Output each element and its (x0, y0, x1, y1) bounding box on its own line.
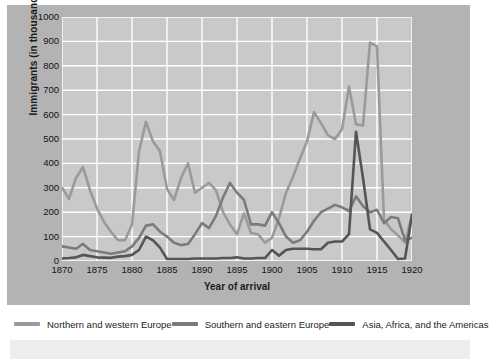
y-tick-label: 800 (25, 61, 59, 71)
y-tick-label: 700 (25, 85, 59, 95)
x-tick-label: 1875 (77, 265, 117, 275)
legend-swatch-icon (172, 322, 198, 326)
scan-band (10, 340, 470, 359)
y-tick-label: 600 (25, 110, 59, 120)
x-tick-label: 1910 (322, 265, 362, 275)
y-tick-label: 100 (25, 232, 59, 242)
x-tick-label: 1915 (357, 265, 397, 275)
y-tick-label: 500 (25, 134, 59, 144)
x-tick-label: 1880 (112, 265, 152, 275)
legend-swatch-icon (14, 322, 40, 326)
legend-label: Southern and eastern Europe (205, 319, 330, 330)
x-tick-label: 1895 (217, 265, 257, 275)
x-tick-label: 1900 (252, 265, 292, 275)
legend-item-2[interactable]: Southern and eastern Europe (172, 319, 330, 330)
chart-legend: Northern and western EuropeSouthern and … (0, 315, 477, 333)
y-tick-label: 900 (25, 36, 59, 46)
x-tick-label: 1920 (392, 265, 432, 275)
y-tick-label: 400 (25, 158, 59, 168)
plot-svg (62, 17, 412, 261)
x-tick-label: 1885 (147, 265, 187, 275)
gridlines (62, 17, 412, 261)
x-tick-label: 1870 (42, 265, 82, 275)
legend-swatch-icon (329, 322, 355, 326)
legend-label: Northern and western Europe (47, 319, 172, 330)
plot-area (62, 17, 412, 261)
y-tick-label: 300 (25, 183, 59, 193)
y-tick-label: 200 (25, 207, 59, 217)
y-tick-label: 1000 (25, 12, 59, 22)
legend-item-3[interactable]: Asia, Africa, and the Americas (329, 319, 488, 330)
legend-item-1[interactable]: Northern and western Europe (14, 319, 172, 330)
x-axis-title: Year of arrival (62, 281, 412, 292)
x-tick-label: 1905 (287, 265, 327, 275)
legend-label: Asia, Africa, and the Americas (362, 319, 488, 330)
x-tick-label: 1890 (182, 265, 222, 275)
